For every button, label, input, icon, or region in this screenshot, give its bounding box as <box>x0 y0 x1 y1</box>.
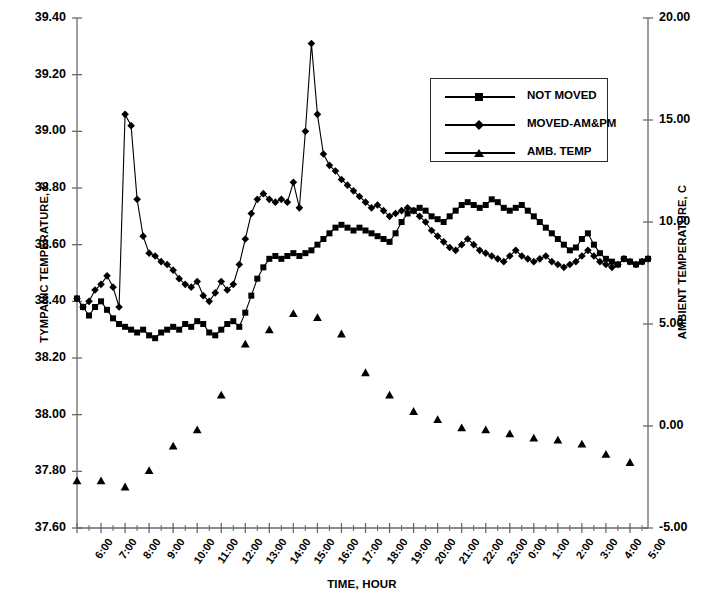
diamond-marker-icon <box>473 119 485 131</box>
legend-item-moved-am-pm: MOVED-AM&PM <box>431 111 609 139</box>
y-axis-left-tick-label: 38.40 <box>0 293 66 307</box>
legend-label-moved-am-pm: MOVED-AM&PM <box>527 117 616 129</box>
y-axis-left-tick-label: 39.00 <box>0 123 66 137</box>
y-axis-left-tick-label: 37.60 <box>0 520 66 534</box>
y-axis-right-tick-label: -5.00 <box>659 520 688 534</box>
legend-item-not-moved: NOT MOVED <box>431 83 609 111</box>
y-axis-left-tick-label: 38.00 <box>0 407 66 421</box>
legend-item-amb-temp: AMB. TEMP <box>431 139 609 167</box>
y-axis-right-tick-label: 0.00 <box>659 418 683 432</box>
y-axis-left-tick-label: 39.20 <box>0 67 66 81</box>
y-axis-left-tick-label: 37.80 <box>0 463 66 477</box>
y-axis-right-tick-label: 20.00 <box>659 10 690 24</box>
square-marker-icon <box>473 91 485 103</box>
legend-label-not-moved: NOT MOVED <box>527 89 597 101</box>
triangle-marker-icon <box>473 147 485 159</box>
y-axis-left-tick-label: 38.60 <box>0 237 66 251</box>
legend-label-amb-temp: AMB. TEMP <box>527 145 592 157</box>
y-axis-left-tick-label: 38.80 <box>0 180 66 194</box>
y-axis-right-tick-label: 10.00 <box>659 214 690 228</box>
chart-legend: NOT MOVED MOVED-AM&PM AMB. TEMP <box>430 78 608 162</box>
plot-area <box>0 0 724 609</box>
y-axis-right-tick-label: 15.00 <box>659 112 690 126</box>
y-axis-left-tick-label: 38.20 <box>0 350 66 364</box>
y-axis-left-tick-label: 39.40 <box>0 10 66 24</box>
y-axis-right-tick-label: 5.00 <box>659 316 683 330</box>
chart-figure: TYMPANIC TEMPERATURE, C AMBIENT TEMPERAT… <box>0 0 724 609</box>
